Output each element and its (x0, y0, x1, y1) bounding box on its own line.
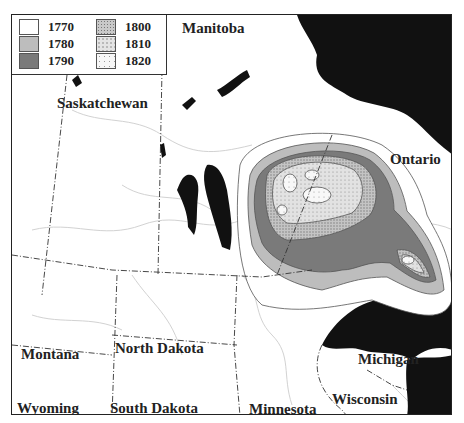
legend-swatch (19, 53, 39, 69)
legend-label: 1810 (125, 36, 151, 52)
legend-swatch (19, 36, 39, 52)
label-saskatchewan: Saskatchewan (57, 95, 148, 112)
label-minnesota: Minnesota (249, 401, 317, 415)
legend-label: 1770 (48, 19, 74, 35)
legend-swatch (19, 19, 39, 35)
legend-item-1810: 1810 (96, 36, 151, 52)
label-ontario: Ontario (390, 151, 441, 168)
legend-item-1820: 1820 (96, 53, 151, 69)
legend-label: 1790 (48, 53, 74, 69)
label-south-dakota: South Dakota (110, 400, 198, 415)
legend-swatch (96, 36, 116, 52)
legend-label: 1820 (125, 53, 151, 69)
legend-swatch (96, 53, 116, 69)
label-manitoba: Manitoba (182, 20, 245, 37)
label-wisconsin: Wisconsin (332, 391, 398, 408)
legend-item-1780: 1780 (19, 36, 74, 52)
range-1820b (283, 174, 297, 192)
legend-item-1770: 1770 (19, 19, 74, 35)
legend-label: 1780 (48, 36, 74, 52)
legend: 1770 1780 1790 1800 1810 1820 (12, 15, 167, 75)
range-1820d (277, 205, 287, 215)
range-map: 1770 1780 1790 1800 1810 1820 Manitoba S… (11, 14, 452, 415)
label-montana: Montana (21, 346, 79, 363)
label-michigan: Michigan (358, 351, 419, 368)
range-1820a (303, 187, 331, 203)
range-1820c (305, 170, 319, 180)
label-north-dakota: North Dakota (115, 340, 204, 357)
range-1820e (402, 256, 414, 264)
legend-label: 1800 (125, 19, 151, 35)
legend-swatch (96, 19, 116, 35)
legend-item-1800: 1800 (96, 19, 151, 35)
legend-item-1790: 1790 (19, 53, 74, 69)
label-wyoming: Wyoming (17, 400, 79, 415)
